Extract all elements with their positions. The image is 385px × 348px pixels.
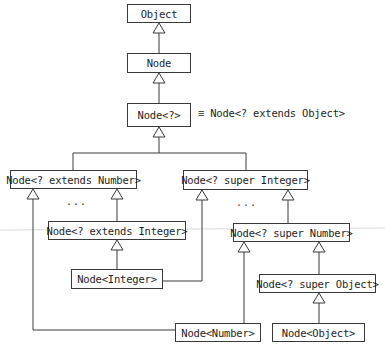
inheritance-arrow-icon xyxy=(238,242,250,252)
inheritance-arrow-icon xyxy=(313,293,325,303)
inheritance-arrow-icon xyxy=(313,242,325,252)
class-label: Object xyxy=(141,8,178,20)
class-box-extends-integer: Node<? extends Integer> xyxy=(48,221,186,240)
class-label: Node xyxy=(147,57,172,69)
class-box-super-integer: Node<? super Integer> xyxy=(183,170,308,190)
inheritance-arrow-icon xyxy=(153,23,165,33)
inheritance-arrow-icon xyxy=(196,190,208,200)
class-box-super-number: Node<? super Number> xyxy=(233,223,350,242)
class-box-super-object: Node<? super Object> xyxy=(259,274,376,293)
class-label: Node<Integer> xyxy=(77,273,157,285)
class-box-node-object: Node<Object> xyxy=(272,323,365,342)
class-label: Node<? extends Integer> xyxy=(47,225,188,237)
class-label: Node<?> xyxy=(138,109,181,121)
class-label: Node<? super Integer> xyxy=(181,174,310,186)
inheritance-arrow-icon xyxy=(282,190,294,200)
inheritance-arrow-icon xyxy=(153,127,165,137)
inheritance-arrow-icon xyxy=(27,189,39,199)
equivalence-note: ≡ Node<? extends Object> xyxy=(198,107,345,119)
class-label: Node<Object> xyxy=(282,327,355,339)
inheritance-arrow-icon xyxy=(111,189,123,199)
class-box-node: Node xyxy=(127,53,191,73)
ellipsis-left: ... xyxy=(66,196,87,207)
class-label: Node<? super Object> xyxy=(256,278,378,290)
class-box-node-number: Node<Number> xyxy=(175,323,261,342)
class-label: Node<Number> xyxy=(181,327,254,339)
inheritance-arrow-icon xyxy=(153,73,165,83)
class-label: Node<? super Number> xyxy=(230,227,352,239)
class-label: Node<? extends Number> xyxy=(6,174,141,186)
class-box-node-integer: Node<Integer> xyxy=(71,269,163,289)
ellipsis-right: ... xyxy=(236,197,257,208)
class-box-object: Object xyxy=(127,4,191,23)
inheritance-arrow-icon xyxy=(111,240,123,250)
class-box-node-wildcard: Node<?> xyxy=(127,103,191,127)
class-box-extends-number: Node<? extends Number> xyxy=(10,170,137,189)
